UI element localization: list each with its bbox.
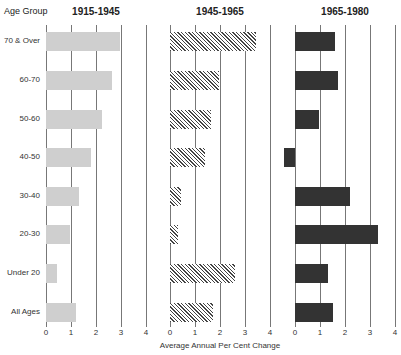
- bar: [46, 148, 91, 167]
- category-label: 40-50: [0, 152, 40, 161]
- bar: [46, 264, 57, 283]
- panel-title: 1945-1965: [170, 6, 270, 17]
- bar: [170, 32, 256, 51]
- bar: [295, 264, 328, 283]
- x-tick-label: 2: [214, 328, 226, 337]
- bar: [295, 71, 338, 90]
- x-tick-label: 1: [314, 328, 326, 337]
- x-tick-label: 0: [164, 328, 176, 337]
- category-label: 60-70: [0, 75, 40, 84]
- gridline: [345, 25, 346, 327]
- gridline: [121, 25, 122, 327]
- x-tick-label: 3: [364, 328, 376, 337]
- bar: [46, 225, 70, 244]
- bar: [170, 110, 211, 129]
- gridline: [245, 25, 246, 327]
- y-axis-title: Age Group: [4, 6, 48, 16]
- bar: [295, 110, 319, 129]
- category-label: Under 20: [0, 268, 40, 277]
- bar: [295, 187, 350, 206]
- x-tick-label: 4: [389, 328, 401, 337]
- x-tick-label: 0: [289, 328, 301, 337]
- bar: [170, 71, 219, 90]
- bar: [46, 303, 76, 322]
- category-label: 30-40: [0, 191, 40, 200]
- x-tick-label: 1: [189, 328, 201, 337]
- x-tick-label: 3: [239, 328, 251, 337]
- x-tick-label: 2: [339, 328, 351, 337]
- x-tick-label: 3: [115, 328, 127, 337]
- x-axis-title: Average Annual Per Cent Change: [145, 341, 295, 350]
- bar: [170, 187, 181, 206]
- gridline: [146, 25, 147, 327]
- gridline: [395, 25, 396, 327]
- category-label: 50-60: [0, 114, 40, 123]
- gridline: [270, 25, 271, 327]
- gridline: [370, 25, 371, 327]
- bar: [170, 264, 235, 283]
- panel-title: 1965-1980: [295, 6, 395, 17]
- bar: [170, 225, 178, 244]
- bar: [46, 110, 102, 129]
- bar: [295, 303, 333, 322]
- category-label: All Ages: [0, 307, 40, 316]
- bar: [46, 71, 112, 90]
- category-label: 70 & Over: [0, 36, 40, 45]
- bar: [170, 148, 205, 167]
- bar: [46, 32, 120, 51]
- bar: [170, 303, 213, 322]
- bar: [46, 187, 79, 206]
- x-tick-label: 0: [40, 328, 52, 337]
- panel-title: 1915-1945: [46, 6, 146, 17]
- x-tick-label: 1: [65, 328, 77, 337]
- x-tick-label: 4: [140, 328, 152, 337]
- bar: [295, 32, 335, 51]
- x-tick-label: 4: [264, 328, 276, 337]
- category-label: 20-30: [0, 229, 40, 238]
- x-tick-label: 2: [90, 328, 102, 337]
- bar: [295, 225, 378, 244]
- bar: [284, 148, 295, 167]
